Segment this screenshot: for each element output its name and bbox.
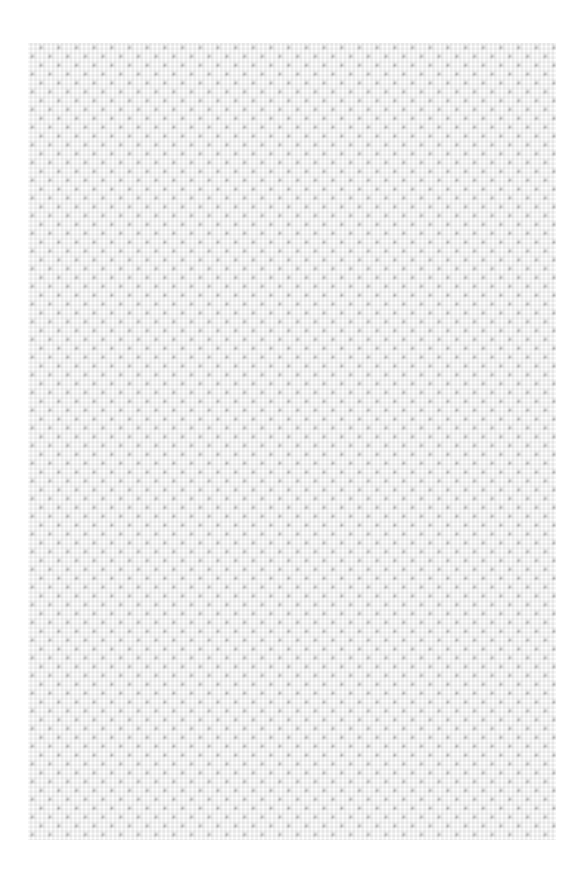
pattern-swatch xyxy=(28,43,556,840)
pattern-layer-pixel-grain xyxy=(28,43,556,840)
page-canvas xyxy=(0,0,584,879)
